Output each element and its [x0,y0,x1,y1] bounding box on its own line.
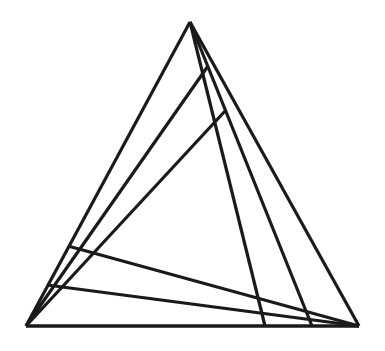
background [0,0,385,351]
figure-canvas [0,0,385,351]
triangle-cevian-diagram [0,0,385,351]
